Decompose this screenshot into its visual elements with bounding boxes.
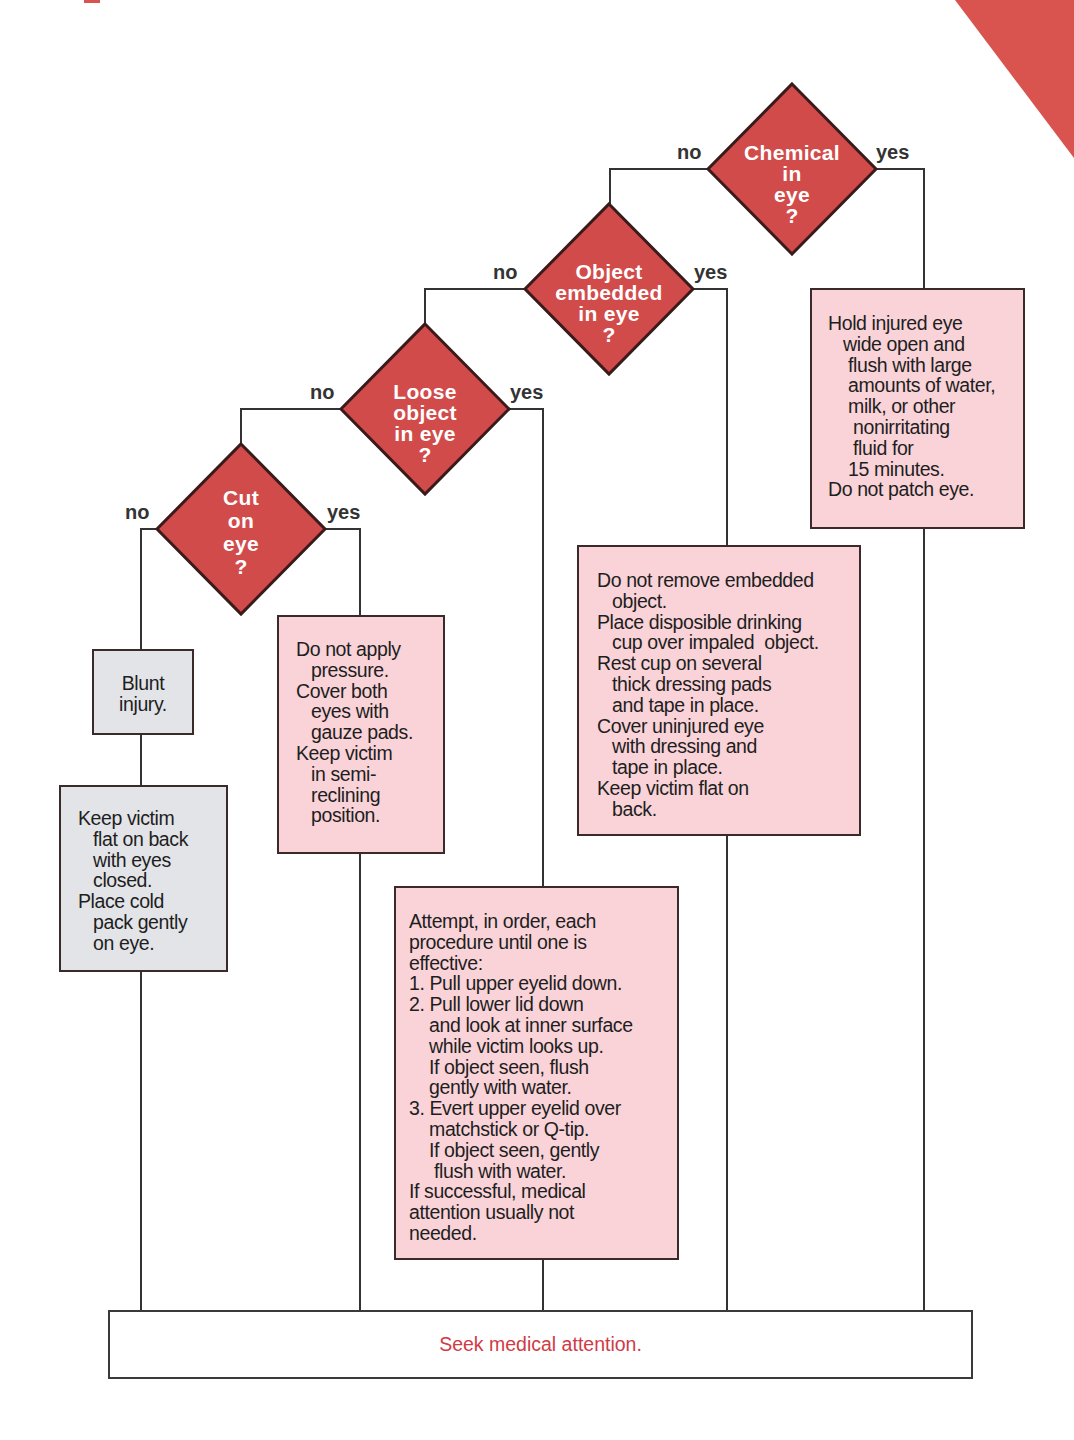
blunt-injury-box: Blunt injury. (92, 649, 194, 735)
loose-no-label: no (310, 381, 334, 404)
seek-medical-attention-box: Seek medical attention. (108, 1310, 973, 1379)
box-line: thick dressing pads (597, 674, 859, 695)
embedded-no-label: no (493, 261, 517, 284)
box-line: pack gently (78, 912, 226, 933)
box-line: object. (597, 591, 859, 612)
decision-label-chemical: Chemical in eye ? (732, 142, 852, 226)
box-line: position. (296, 805, 443, 826)
seek-medical-attention-label: Seek medical attention. (439, 1333, 642, 1356)
box-line: If object seen, flush (409, 1057, 677, 1078)
embedded-object-care-box: Do not remove embedded object. Place dis… (577, 545, 861, 836)
box-line: Attempt, in order, each (409, 911, 677, 932)
box-line: If successful, medical (409, 1181, 677, 1202)
box-line: Place cold (78, 891, 226, 912)
loose-yes-connector (508, 409, 543, 886)
box-line: matchstick or Q-tip. (409, 1119, 677, 1140)
box-line: tape in place. (597, 757, 859, 778)
box-line: Rest cup on several (597, 653, 859, 674)
embedded-no-connector (425, 289, 526, 324)
box-line: 15 minutes. (828, 459, 1023, 480)
box-line: Do not apply (296, 639, 443, 660)
box-line: Cover both (296, 681, 443, 702)
cut-no-connector (141, 529, 158, 649)
box-line: effective: (409, 953, 677, 974)
embedded-yes-label: yes (694, 261, 727, 284)
box-line: pressure. (296, 660, 443, 681)
box-line: eyes with (296, 701, 443, 722)
box-line: Keep victim (78, 808, 226, 829)
box-line: Blunt (94, 673, 192, 694)
chemical-yes-label: yes (876, 141, 909, 164)
box-line: flush with large (828, 355, 1023, 376)
loose-yes-label: yes (510, 381, 543, 404)
corner-accent-triangle (955, 0, 1074, 158)
box-line: gauze pads. (296, 722, 443, 743)
box-line: 3. Evert upper eyelid over (409, 1098, 677, 1119)
box-line: Cover uninjured eye (597, 716, 859, 737)
cut-yes-label: yes (327, 501, 360, 524)
box-line: back. (597, 799, 859, 820)
embedded-yes-connector (692, 289, 727, 545)
box-line: injury. (94, 694, 192, 715)
chemical-in-eye-care-box: Hold injured eye wide open and flush wit… (810, 288, 1025, 529)
loose-object-care-box: Attempt, in order, each procedure until … (394, 886, 679, 1260)
chemical-no-label: no (677, 141, 701, 164)
box-line: milk, or other (828, 396, 1023, 417)
box-line: gently with water. (409, 1077, 677, 1098)
box-line: wide open and (828, 334, 1023, 355)
loose-no-connector (241, 409, 342, 444)
top-left-red-mark (84, 0, 100, 3)
blunt-injury-care-box: Keep victim flat on back with eyes close… (59, 785, 228, 972)
box-line: amounts of water, (828, 375, 1023, 396)
decision-label-cut: Cut on eye ? (181, 486, 301, 578)
box-line: Do not remove embedded (597, 570, 859, 591)
box-line: cup over impaled object. (597, 632, 859, 653)
box-line: 1. Pull upper eyelid down. (409, 973, 677, 994)
decision-label-loose: Loose object in eye ? (365, 381, 485, 465)
box-line: and tape in place. (597, 695, 859, 716)
cut-no-label: no (125, 501, 149, 524)
chemical-no-connector (610, 169, 710, 204)
box-line: reclining (296, 785, 443, 806)
box-line: on eye. (78, 933, 226, 954)
box-line: with eyes (78, 850, 226, 871)
box-line: Hold injured eye (828, 313, 1023, 334)
chemical-yes-connector (874, 169, 924, 288)
box-line: needed. (409, 1223, 677, 1244)
box-line: Keep victim (296, 743, 443, 764)
box-line: If object seen, gently (409, 1140, 677, 1161)
decision-label-embedded: Object embedded in eye ? (549, 261, 669, 345)
box-line: Do not patch eye. (828, 479, 1023, 500)
box-line: in semi- (296, 764, 443, 785)
box-line: procedure until one is (409, 932, 677, 953)
box-line: nonirritating (828, 417, 1023, 438)
box-line: and look at inner surface (409, 1015, 677, 1036)
cut-on-eye-care-box: Do not apply pressure. Cover both eyes w… (277, 615, 445, 854)
box-line: Keep victim flat on (597, 778, 859, 799)
box-line: with dressing and (597, 736, 859, 757)
box-line: fluid for (828, 438, 1023, 459)
box-line: flush with water. (409, 1161, 677, 1182)
box-line: Place disposible drinking (597, 612, 859, 633)
box-line: 2. Pull lower lid down (409, 994, 677, 1015)
box-line: while victim looks up. (409, 1036, 677, 1057)
box-line: closed. (78, 870, 226, 891)
box-line: attention usually not (409, 1202, 677, 1223)
box-line: flat on back (78, 829, 226, 850)
cut-yes-connector (324, 529, 360, 615)
